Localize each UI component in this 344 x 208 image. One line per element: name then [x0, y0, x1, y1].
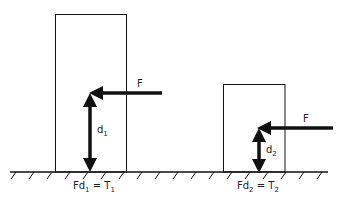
distance-label-2: d2 [266, 144, 277, 158]
equation-1: Fd1 = T1 [73, 180, 115, 194]
diagram-canvas [0, 0, 344, 208]
distance-label-1: d1 [97, 124, 108, 138]
ground [10, 172, 328, 179]
force-label-1: F [137, 78, 143, 89]
equation-2: Fd2 = T2 [237, 180, 279, 194]
force-label-2: F [303, 113, 309, 124]
torque-diagram: F d1 Fd1 = T1 F d2 Fd2 = T2 [0, 0, 344, 208]
